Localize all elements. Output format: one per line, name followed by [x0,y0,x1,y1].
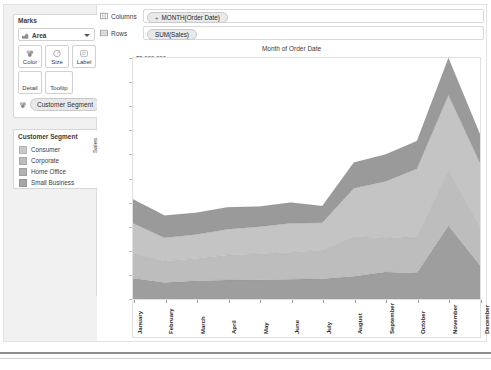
legend-swatch-icon [19,168,27,176]
tooltip-button-label: Tooltip [46,85,72,91]
rows-shelf-well[interactable]: SUM(Sales) [143,26,484,40]
columns-pill-month-order-date[interactable]: +MONTH(Order Date) [147,12,228,23]
tooltip-button[interactable]: Tooltip [45,71,73,94]
x-axis-tick-label[interactable]: May [263,322,269,334]
legend-item-consumer[interactable]: Consumer [19,144,95,155]
label-tag-icon [80,49,89,58]
worksheet-area: Columns +MONTH(Order Date) Rows SUM(Sale… [97,5,486,341]
x-axis-tick-mark [449,300,450,303]
columns-shelf: Columns +MONTH(Order Date) [99,9,484,23]
rows-shelf: Rows SUM(Sales) [99,26,484,40]
marks-card-title: Marks [18,17,37,24]
x-axis-tick-label[interactable]: November [452,305,458,334]
pill-expand-icon[interactable]: + [155,14,159,24]
rows-pill-label: SUM(Sales) [155,31,189,38]
stacked-area-chart [133,58,480,299]
label-button-label: Label [73,59,95,65]
mark-type-dropdown[interactable]: Area [18,28,95,41]
x-axis-tick-mark [197,300,198,303]
x-axis-tick-mark [386,300,387,303]
x-axis-tick-mark [292,300,293,303]
x-axis-tick-label[interactable]: September [389,303,395,334]
legend-item-label: Consumer [31,146,60,153]
x-axis-tick-label[interactable]: February [168,308,174,334]
tableau-worksheet-window: Marks Area Color [0,0,491,370]
color-button-label: Color [19,59,41,65]
visualization-pane: Month of Order Date Sales $5,000,000$4,5… [99,43,484,338]
detail-button[interactable]: Detail [18,71,42,94]
x-axis-tick-mark [355,300,356,303]
legend-swatch-icon [19,146,27,154]
y-axis-title: Sales [92,138,98,153]
x-axis-tick-label[interactable]: December [484,305,490,334]
rows-shelf-label: Rows [111,30,127,37]
label-button[interactable]: Label [72,45,96,68]
x-axis-tick-label[interactable]: January [137,311,143,334]
legend-item-label: Corporate [31,157,59,164]
columns-shelf-icon [100,12,108,20]
detail-button-label: Detail [19,85,41,91]
mark-type-value: Area [32,32,46,39]
color-palette-icon [19,101,27,109]
columns-pill-label: MONTH(Order Date) [162,14,220,21]
legend-item-corporate[interactable]: Corporate [19,155,95,166]
left-panel-filler [4,296,97,341]
legend-title: Customer Segment [18,133,78,140]
legend-item-label: Small Business [31,179,74,186]
x-axis-tick-label[interactable]: April [231,320,237,334]
area-chart-icon [22,32,29,39]
window-bottom-shadow [0,358,491,359]
color-palette-icon [26,49,35,58]
x-axis-tick-mark [166,300,167,303]
x-axis-tick-mark [481,300,482,303]
x-axis-tick-label[interactable]: June [294,320,300,334]
x-axis-tick-mark [418,300,419,303]
left-panel: Marks Area Color [4,5,97,341]
x-axis-tick-label[interactable]: July [326,322,332,334]
x-axis-tick-mark [229,300,230,303]
rows-shelf-icon [100,29,108,37]
window-bottom-border [0,352,491,354]
x-axis: JanuaryFebruaryMarchAprilMayJuneJulyAugu… [132,300,481,338]
chart-title: Month of Order Date [99,45,484,52]
size-circle-icon [53,49,62,58]
legend-item-label: Home Office [31,168,66,175]
chevron-down-icon [84,34,90,37]
size-button[interactable]: Size [45,45,69,68]
marks-color-pill[interactable]: Customer Segment [30,98,100,111]
legend-swatch-icon [19,179,27,187]
x-axis-tick-mark [323,300,324,303]
x-axis-tick-mark [260,300,261,303]
x-axis-tick-label[interactable]: August [357,313,363,334]
color-button[interactable]: Color [18,45,42,68]
rows-pill-sum-sales[interactable]: SUM(Sales) [147,29,197,40]
columns-shelf-label: Columns [111,13,137,20]
plot-area [132,57,481,300]
size-button-label: Size [46,59,68,65]
x-axis-tick-label[interactable]: March [200,316,206,334]
columns-shelf-well[interactable]: +MONTH(Order Date) [143,9,484,23]
legend-item-small-business[interactable]: Small Business [19,177,95,188]
marks-card: Marks Area Color [13,14,98,118]
x-axis-tick-mark [134,300,135,303]
marks-encoding-row: Customer Segment [17,98,96,112]
legend-item-home-office[interactable]: Home Office [19,166,95,177]
x-axis-tick-label[interactable]: October [420,311,426,334]
color-legend-card: Customer Segment Consumer Corporate Home… [13,129,98,189]
legend-swatch-icon [19,157,27,165]
